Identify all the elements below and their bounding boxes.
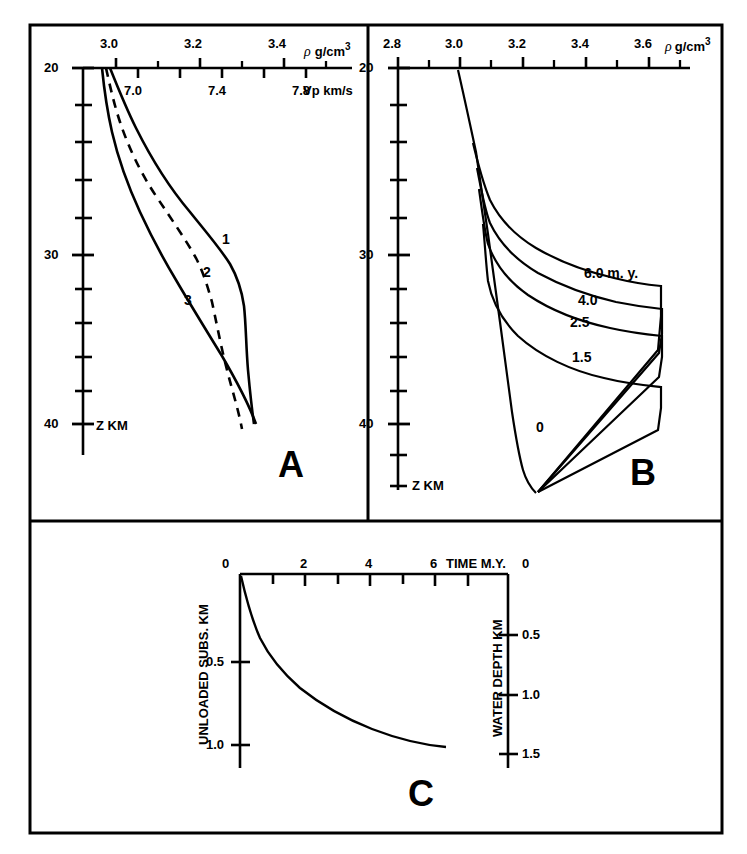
- panel-a-tick-rho-34: 3.4: [268, 36, 286, 51]
- panel-c-letter: C: [408, 773, 434, 815]
- panel-a-tick-rho-30: 3.0: [100, 36, 118, 51]
- panel-c-top-ticks: [273, 574, 468, 586]
- panel-a-rho-units: g/cm: [315, 44, 345, 59]
- panel-c-right-tick-15: 1.5: [522, 746, 540, 761]
- panel-c-right-tick-05: 0.5: [522, 627, 540, 642]
- panel-b-curve-label-0: 0: [536, 419, 544, 435]
- panel-b-depth-tick-40: 40: [359, 416, 373, 431]
- panel-a-vp-ticks: [138, 68, 306, 78]
- panel-c-right-axis-title: WATER DEPTH KM: [490, 620, 505, 737]
- panel-b-tick-rho-34: 3.4: [571, 36, 589, 51]
- panel-a-depth-tick-20: 20: [44, 60, 58, 75]
- panel-b-depth-tick-30: 30: [359, 247, 373, 262]
- panel-a-top-major-ticks: [116, 58, 284, 68]
- panel-b-top-major-ticks: [398, 57, 649, 68]
- panel-b-rho-axis-title: ρg/cm3: [665, 36, 711, 55]
- panel-c-time-axis-title: TIME M.Y.: [446, 556, 506, 571]
- panel-a-depth-axis-title: Z KM: [96, 418, 128, 433]
- panel-b: 6.0 m. y. 4.0 2.5 1.5 0: [388, 57, 690, 493]
- panel-a-curve-label-3: 3: [184, 292, 192, 308]
- figure-outer-frame: [30, 25, 722, 833]
- panel-c-right-tick-0: 0: [522, 556, 529, 571]
- panel-a-curve-1: [110, 68, 254, 424]
- panel-b-curve-6-0: [473, 143, 661, 492]
- panel-a-curve-label-2: 2: [203, 264, 211, 280]
- panel-a-depth-tick-40: 40: [44, 416, 58, 431]
- panel-b-tick-rho-30: 3.0: [445, 36, 463, 51]
- panel-b-curve-2-5: [479, 189, 662, 492]
- panel-b-curve-label-6-0: 6.0 m. y.: [584, 265, 638, 281]
- panel-c-time-tick-6: 6: [430, 556, 437, 571]
- panel-a-letter: A: [278, 444, 304, 486]
- rho-symbol-a: ρ: [304, 44, 311, 59]
- panel-b-letter: B: [630, 452, 656, 494]
- panel-c-left-axis-title: UNLOADED SUBS. KM: [196, 604, 211, 745]
- panel-c-time-tick-2: 2: [300, 556, 307, 571]
- panel-b-curve-label-4-0: 4.0: [578, 292, 598, 308]
- panel-a-tick-rho-32: 3.2: [184, 36, 202, 51]
- panel-a-curve-2: [106, 68, 242, 429]
- panel-c: [231, 574, 518, 768]
- panel-b-tick-rho-28: 2.8: [383, 36, 401, 51]
- panel-a-curve-label-1: 1: [222, 231, 230, 247]
- panel-b-tick-rho-36: 3.6: [634, 36, 652, 51]
- panel-b-depth-axis-title: Z KM: [412, 478, 444, 493]
- panel-b-curve-label-1-5: 1.5: [572, 349, 592, 365]
- panel-a-rho-axis-title: ρg/cm3: [304, 41, 351, 60]
- panel-a-depth-tick-30: 30: [44, 247, 58, 262]
- panel-c-right-tick-10: 1.0: [522, 687, 540, 702]
- panel-c-subsidence-curve: [241, 576, 446, 747]
- panel-b-curve-0: [458, 70, 536, 493]
- rho-symbol-b: ρ: [665, 39, 672, 54]
- panel-c-time-tick-4: 4: [365, 556, 372, 571]
- panel-a-tick-vp-74: 7.4: [208, 83, 226, 98]
- panel-a-tick-vp-70: 7.0: [124, 83, 142, 98]
- panel-a-curve-3: [102, 68, 256, 424]
- panel-b-tick-rho-32: 3.2: [508, 36, 526, 51]
- panel-a-vp-axis-title: Vp km/s: [303, 83, 353, 98]
- panel-c-time-tick-0: 0: [222, 556, 229, 571]
- panel-b-curve-label-2-5: 2.5: [570, 314, 590, 330]
- panel-b-depth-tick-20: 20: [359, 60, 373, 75]
- panel-a: 1 2 3: [72, 58, 352, 455]
- panel-b-rho-units: g/cm: [675, 39, 705, 54]
- panel-a-rho-exponent: 3: [345, 41, 351, 52]
- panel-b-rho-exponent: 3: [705, 36, 711, 47]
